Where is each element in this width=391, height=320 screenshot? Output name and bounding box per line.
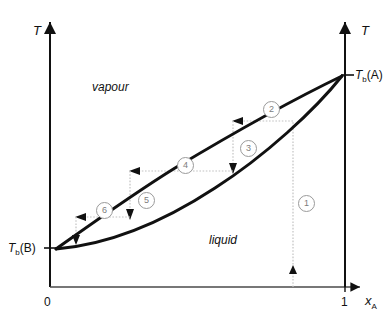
phase-diagram-figure: T T vapour liquid Tb(A) Tb(B) 0 1 xA 1 2…	[0, 0, 391, 320]
liquid-region-label: liquid	[209, 234, 237, 246]
step-marker-1: 1	[298, 195, 315, 212]
x-axis-label: xA	[365, 294, 377, 311]
step-5-arrowhead	[126, 209, 134, 220]
step-marker-3: 3	[240, 140, 257, 157]
x-axis-subscript: A	[372, 302, 377, 311]
step-marker-5: 5	[138, 192, 155, 209]
x-tick-label-one: 1	[341, 296, 348, 308]
step-4-arrowhead	[129, 167, 140, 175]
step-2-arrowhead	[232, 117, 243, 125]
vapour-region-label: vapour	[92, 81, 129, 93]
step-1-arrowhead	[289, 265, 297, 274]
diagram-canvas	[0, 0, 391, 320]
x-tick-label-zero: 0	[44, 296, 51, 308]
tb-b-species: (B)	[20, 241, 36, 255]
step-6-arrowhead	[75, 213, 86, 221]
right-axis-label: T	[361, 24, 369, 37]
step-marker-2: 2	[263, 101, 280, 118]
liquidus-curve	[56, 76, 342, 249]
tb-a-label: Tb(A)	[355, 69, 383, 84]
vapourus-curve	[56, 76, 342, 249]
tb-b-label: Tb(B)	[8, 242, 36, 257]
step-marker-4: 4	[177, 157, 194, 174]
tb-a-species: (A)	[367, 68, 383, 82]
step-marker-6: 6	[96, 202, 113, 219]
left-axis-label: T	[33, 24, 41, 37]
